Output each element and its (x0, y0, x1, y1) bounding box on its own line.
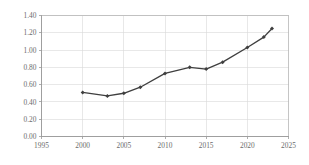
y-tick-label: 1.40 (24, 11, 37, 20)
x-tick-label: 2005 (116, 141, 131, 150)
x-tick-label: 1995 (34, 141, 49, 150)
x-tick-label: 2015 (199, 141, 214, 150)
y-tick-label: 0.20 (24, 115, 37, 124)
y-tick-label: 0.00 (24, 132, 37, 141)
y-tick-label: 1.00 (24, 46, 37, 55)
y-tick-label: 0.40 (24, 98, 37, 107)
y-tick-label: 0.60 (24, 80, 37, 89)
line-chart: 0.000.200.400.600.801.001.201.40 1995200… (0, 0, 309, 165)
x-tick-label: 2020 (240, 141, 255, 150)
chart-canvas: 0.000.200.400.600.801.001.201.40 1995200… (0, 0, 309, 165)
x-tick-label: 2000 (75, 141, 90, 150)
y-tick-label: 0.80 (24, 63, 37, 72)
y-tick-label: 1.20 (24, 28, 37, 37)
x-tick-label: 2025 (281, 141, 296, 150)
x-tick-label: 2010 (158, 141, 173, 150)
